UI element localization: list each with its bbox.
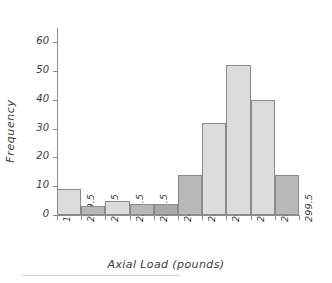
histogram-figure: Frequency 0102030405060 199.5209.5219.52… bbox=[0, 0, 332, 283]
x-tick bbox=[130, 215, 131, 220]
plot-area: 0102030405060 199.5209.5219.5229.5239.52… bbox=[57, 28, 299, 216]
x-tick bbox=[299, 215, 300, 220]
footer-rule bbox=[22, 275, 180, 276]
y-tick: 20 bbox=[53, 157, 58, 158]
y-tick-label: 10 bbox=[36, 179, 49, 190]
histogram-bar bbox=[202, 123, 226, 215]
histogram-bar bbox=[81, 206, 105, 215]
y-tick-label: 50 bbox=[36, 64, 49, 75]
x-axis-title: Axial Load (pounds) bbox=[0, 258, 332, 271]
y-tick: 10 bbox=[53, 186, 58, 187]
x-tick bbox=[105, 215, 106, 220]
x-tick bbox=[81, 215, 82, 220]
y-tick: 50 bbox=[53, 71, 58, 72]
histogram-bar bbox=[178, 175, 202, 215]
y-tick-label: 40 bbox=[36, 93, 49, 104]
histogram-bar bbox=[130, 204, 154, 216]
histogram-bar bbox=[275, 175, 299, 215]
histogram-bar bbox=[105, 201, 129, 215]
histogram-bar bbox=[154, 204, 178, 216]
y-tick-label: 20 bbox=[36, 150, 49, 161]
x-tick-label: 299.5 bbox=[303, 194, 314, 222]
y-axis-title: Frequency bbox=[4, 76, 17, 186]
x-tick bbox=[251, 215, 252, 220]
histogram-bar bbox=[251, 100, 275, 215]
y-axis-line bbox=[57, 28, 58, 216]
x-tick bbox=[154, 215, 155, 220]
y-tick-label: 30 bbox=[36, 122, 49, 133]
x-tick bbox=[178, 215, 179, 220]
y-tick: 60 bbox=[53, 42, 58, 43]
histogram-bar bbox=[226, 65, 250, 215]
x-tick bbox=[275, 215, 276, 220]
y-tick-label: 60 bbox=[36, 35, 49, 46]
y-tick-label: 0 bbox=[43, 208, 49, 219]
x-tick bbox=[57, 215, 58, 220]
x-tick bbox=[202, 215, 203, 220]
x-tick bbox=[226, 215, 227, 220]
histogram-bar bbox=[57, 189, 81, 215]
y-tick: 30 bbox=[53, 129, 58, 130]
y-tick: 40 bbox=[53, 100, 58, 101]
